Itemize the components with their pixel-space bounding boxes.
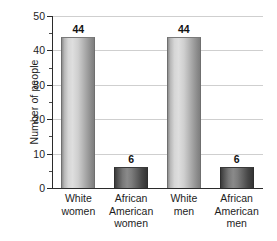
y-axis-major-tick (47, 119, 52, 120)
x-axis-tick-label-line: White (52, 192, 105, 205)
y-axis-line (52, 16, 53, 189)
gridline (53, 16, 263, 17)
y-axis-minor-tick (49, 171, 52, 172)
y-axis-major-tick (47, 16, 52, 17)
y-axis-major-tick (47, 50, 52, 51)
x-axis-tick-label: AfricanAmericanmen (210, 192, 263, 230)
y-axis-minor-tick (49, 33, 52, 34)
bar-value-label: 44 (73, 23, 85, 35)
x-axis-tick-label-line: African (105, 192, 158, 205)
y-axis-tick-label: 50 (33, 10, 45, 22)
y-axis-tick-label: 10 (33, 148, 45, 160)
x-axis-line (52, 188, 263, 189)
y-axis-tick-label: 0 (39, 182, 45, 194)
x-axis-tick-label-line: American (210, 205, 263, 218)
y-axis-minor-tick (49, 102, 52, 103)
bar-value-label: 44 (178, 23, 190, 35)
y-axis-minor-tick (49, 68, 52, 69)
bar-value-label: 6 (234, 153, 240, 165)
y-axis-tick-label: 40 (33, 44, 45, 56)
y-axis-tick-label: 30 (33, 79, 45, 91)
x-axis-tick-label-line: White (158, 192, 211, 205)
x-axis-tick-label: AfricanAmericanwomen (105, 192, 158, 230)
y-axis-major-tick (47, 85, 52, 86)
bar: 44 (61, 37, 95, 188)
x-axis-tick-label-line: African (210, 192, 263, 205)
plot-area: 01020304050 446446 (52, 16, 263, 188)
y-axis-major-tick (47, 188, 52, 189)
bar: 44 (167, 37, 201, 188)
bar-chart: Number of people 01020304050 446446 Whit… (0, 0, 277, 241)
x-axis-tick-label: Whitemen (158, 192, 211, 217)
bar-value-label: 6 (128, 153, 134, 165)
x-axis-tick-label: Whitewomen (52, 192, 105, 217)
bar: 6 (114, 167, 148, 188)
x-axis-tick-label-line: American (105, 205, 158, 218)
y-axis-minor-tick (49, 136, 52, 137)
x-axis-tick-label-line: men (210, 217, 263, 230)
x-axis-tick-label-line: men (158, 205, 211, 218)
y-axis-tick-label: 20 (33, 113, 45, 125)
bar: 6 (220, 167, 254, 188)
y-axis-major-tick (47, 154, 52, 155)
x-axis-tick-label-line: women (105, 217, 158, 230)
x-axis-tick-label-line: women (52, 205, 105, 218)
